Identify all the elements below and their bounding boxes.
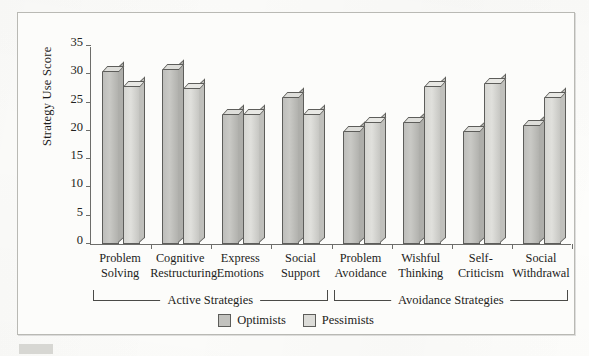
- bar-pessimists-4: [364, 122, 381, 244]
- bar-optimists-3: [282, 97, 299, 244]
- x-axis-label-line: Wishful: [391, 251, 451, 266]
- bar-pessimists-3: [303, 114, 320, 244]
- y-tick: 25: [61, 102, 91, 103]
- y-tick-mark: [86, 158, 91, 159]
- y-tick-label: 20: [71, 121, 84, 134]
- y-tick: 20: [61, 130, 91, 131]
- bar-side-face: [560, 88, 566, 243]
- x-axis-label: CognitiveRestructuring: [150, 251, 210, 280]
- x-axis-label: ProblemSolving: [90, 251, 150, 280]
- y-tick-mark: [86, 45, 91, 46]
- y-tick-mark: [86, 215, 91, 216]
- legend-swatch-optimists: [218, 314, 231, 327]
- bar-pair: [102, 46, 140, 244]
- x-axis-label-line: Problem: [331, 251, 391, 266]
- x-axis-label-line: Criticism: [451, 266, 511, 281]
- bar-pessimists-0: [123, 86, 140, 244]
- x-axis-label-line: Cognitive: [150, 251, 210, 266]
- x-axis-label: SocialWithdrawal: [511, 251, 571, 280]
- bar-pair: [463, 46, 501, 244]
- y-tick-mark: [86, 186, 91, 187]
- y-tick-mark: [86, 130, 91, 131]
- bar-pair: [343, 46, 381, 244]
- y-tick-label: 25: [71, 93, 84, 106]
- y-tick-label: 15: [71, 149, 84, 162]
- y-tick-label: 0: [77, 234, 83, 247]
- y-tick-mark: [86, 73, 91, 74]
- x-tick-mark: [452, 244, 453, 249]
- y-tick-label: 30: [71, 64, 84, 77]
- y-tick: 15: [61, 158, 91, 159]
- bar-pair: [403, 46, 441, 244]
- group-bracket: Avoidance Strategies: [334, 290, 569, 301]
- chart-legend: OptimistsPessimists: [18, 313, 574, 328]
- bar-side-face: [259, 104, 265, 243]
- bar-pessimists-5: [424, 86, 441, 244]
- legend-label: Optimists: [237, 313, 286, 328]
- y-tick-label: 10: [71, 177, 84, 190]
- y-tick-mark: [86, 243, 91, 244]
- y-tick: 0: [61, 243, 91, 244]
- bar-side-face: [178, 59, 184, 243]
- bar-side-face: [500, 73, 506, 243]
- bar-side-face: [118, 62, 124, 243]
- bar-side-face: [380, 113, 386, 243]
- legend-item-optimists: Optimists: [218, 313, 286, 328]
- bar-side-face: [539, 116, 545, 243]
- x-tick-mark: [572, 244, 573, 249]
- legend-swatch-pessimists: [303, 314, 316, 327]
- y-tick: 35: [61, 45, 91, 46]
- x-tick-mark: [392, 244, 393, 249]
- x-axis-label: ProblemAvoidance: [331, 251, 391, 280]
- bar-optimists-6: [463, 131, 480, 244]
- x-axis-label: SocialSupport: [270, 251, 330, 280]
- x-axis-label: Self-Criticism: [451, 251, 511, 280]
- x-axis-label-line: Avoidance: [331, 266, 391, 281]
- x-tick-mark: [271, 244, 272, 249]
- x-axis-label-line: Emotions: [210, 266, 270, 281]
- x-axis-label-line: Withdrawal: [511, 266, 571, 281]
- scan-artifact: [19, 344, 53, 354]
- bar-optimists-1: [162, 69, 179, 244]
- y-tick-mark: [86, 102, 91, 103]
- x-axis-label: WishfulThinking: [391, 251, 451, 280]
- x-axis-label-line: Social: [270, 251, 330, 266]
- bar-pessimists-1: [183, 88, 200, 244]
- x-tick-mark: [332, 244, 333, 249]
- bar-pair: [282, 46, 320, 244]
- bar-pessimists-6: [484, 83, 501, 244]
- x-axis-label-line: Self-: [451, 251, 511, 266]
- x-axis-label-line: Thinking: [391, 266, 451, 281]
- x-tick-mark: [512, 244, 513, 249]
- x-tick-mark: [211, 244, 212, 249]
- bar-optimists-7: [523, 125, 540, 244]
- y-tick: 5: [61, 215, 91, 216]
- figure-page: Strategy Use Score 05101520253035 Proble…: [0, 0, 589, 356]
- bar-side-face: [419, 113, 425, 243]
- x-axis-label: ExpressEmotions: [210, 251, 270, 280]
- bar-optimists-4: [343, 131, 360, 244]
- bar-side-face: [479, 121, 485, 243]
- x-axis-label-line: Support: [270, 266, 330, 281]
- bar-optimists-0: [102, 71, 119, 244]
- x-axis-label-line: Restructuring: [150, 266, 210, 281]
- y-tick-label: 5: [77, 206, 83, 219]
- x-axis-label-line: Social: [511, 251, 571, 266]
- group-bracket-label: Avoidance Strategies: [391, 293, 511, 308]
- bar-pair: [162, 46, 200, 244]
- legend-label: Pessimists: [322, 313, 374, 328]
- x-tick-mark: [151, 244, 152, 249]
- x-axis-label-line: Express: [210, 251, 270, 266]
- legend-item-pessimists: Pessimists: [303, 313, 374, 328]
- bar-side-face: [238, 104, 244, 243]
- group-bracket-label: Active Strategies: [160, 293, 260, 308]
- y-tick: 10: [61, 186, 91, 187]
- group-bracket: Active Strategies: [93, 290, 328, 301]
- bar-pessimists-2: [243, 114, 260, 244]
- x-axis-label-line: Solving: [90, 266, 150, 281]
- bar-side-face: [199, 79, 205, 243]
- y-tick-label: 35: [71, 36, 84, 49]
- bar-side-face: [319, 104, 325, 243]
- bar-side-face: [440, 76, 446, 243]
- bar-pair: [222, 46, 260, 244]
